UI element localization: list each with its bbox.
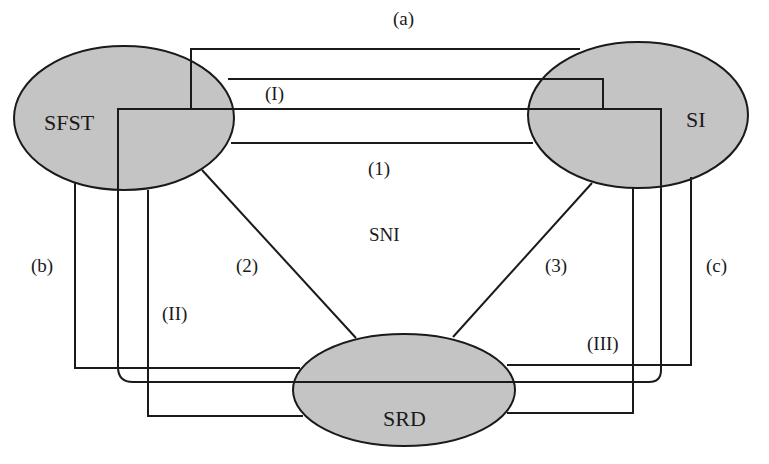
label-1: (1) [368, 158, 390, 180]
label-2: (2) [236, 255, 258, 277]
label-a: (a) [393, 8, 414, 30]
node-sfst-label: SFST [44, 110, 95, 135]
network-diagram: SFST SI SRD SNI (a) (I) (1) (b) (2) (3) … [0, 0, 769, 464]
label-II: (II) [162, 303, 187, 325]
link-3-path [453, 183, 592, 337]
label-III: (III) [587, 333, 619, 355]
link-2-path [202, 170, 356, 338]
label-c: (c) [706, 255, 727, 277]
label-I: (I) [265, 83, 284, 105]
node-si [528, 42, 748, 188]
label-3: (3) [545, 255, 567, 277]
center-label-sni: SNI [369, 224, 400, 245]
label-b: (b) [31, 255, 53, 277]
node-srd-label: SRD [383, 406, 426, 431]
link-III-path [507, 187, 633, 413]
link-b-path [75, 183, 300, 368]
node-si-label: SI [686, 107, 706, 132]
